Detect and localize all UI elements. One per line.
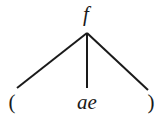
leaf-left-paren: ( bbox=[9, 92, 16, 113]
root-node-f: f bbox=[83, 4, 89, 25]
leaf-right-paren: ) bbox=[148, 92, 155, 113]
leaf-ae: ae bbox=[77, 92, 97, 113]
edge-root-to-left-paren bbox=[17, 33, 87, 88]
edge-root-to-right-paren bbox=[87, 33, 148, 90]
